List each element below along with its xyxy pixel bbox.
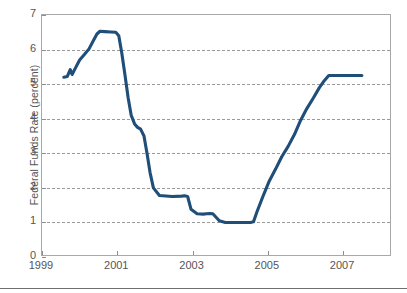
plot-area [41,14,391,256]
footer-divider [0,288,407,289]
y-tick-label-4: 4 [18,111,36,123]
y-tick-label-5: 5 [18,76,36,88]
chart-figure: Federal Funds Rate (percent) 01234567 19… [0,0,407,293]
y-tick-label-6: 6 [18,42,36,54]
y-tick-label-3: 3 [18,145,36,157]
data-series-federal-funds-rate [42,15,392,257]
x-tick-label-2003: 2003 [172,259,212,271]
x-tick-label-2001: 2001 [96,259,136,271]
y-tick-label-1: 1 [18,214,36,226]
y-tick-label-7: 7 [18,7,36,19]
x-tick-label-2005: 2005 [247,259,287,271]
x-tick-label-2007: 2007 [322,259,362,271]
x-tick-label-1999: 1999 [21,259,61,271]
y-tick-mark-0 [42,257,46,258]
series-line [64,31,362,222]
y-tick-label-2: 2 [18,180,36,192]
